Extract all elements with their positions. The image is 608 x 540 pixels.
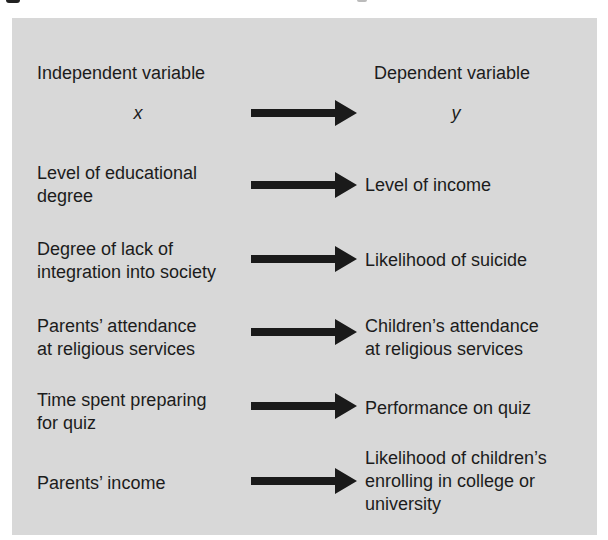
dependent-variable-label: Likelihood of suicide <box>365 249 527 272</box>
variables-diagram-panel: Independent variable Dependent variable … <box>12 18 597 535</box>
label-line: at religious services <box>365 338 539 361</box>
arrow-icon <box>251 468 357 494</box>
label-line: Degree of lack of <box>37 238 216 261</box>
label-line: enrolling in college or <box>365 470 547 493</box>
independent-symbol-x: x <box>134 102 143 124</box>
arrow-icon <box>251 393 357 419</box>
arrow-icon <box>251 319 357 345</box>
label-line: for quiz <box>37 412 206 435</box>
label-line: university <box>365 493 547 516</box>
dependent-variable-label: Children’s attendance at religious servi… <box>365 315 539 361</box>
arrow-icon <box>251 172 357 198</box>
dependent-variable-label: Level of income <box>365 174 491 197</box>
dependent-symbol-y: y <box>452 102 461 124</box>
independent-variable-header: Independent variable <box>37 62 205 84</box>
independent-variable-label: Parents’ income <box>37 472 165 495</box>
independent-variable-label: Parents’ attendance at religious service… <box>37 315 196 361</box>
cropped-decoration <box>357 0 367 2</box>
label-line: at religious services <box>37 338 196 361</box>
arrow-icon <box>251 246 357 272</box>
independent-variable-label: Level of educational degree <box>37 162 197 208</box>
label-line: Parents’ income <box>37 472 165 495</box>
arrow-icon <box>251 100 357 126</box>
dependent-variable-label: Likelihood of children’s enrolling in co… <box>365 447 547 516</box>
label-line: Likelihood of suicide <box>365 249 527 272</box>
label-line: Likelihood of children’s <box>365 447 547 470</box>
dependent-variable-header: Dependent variable <box>374 62 530 84</box>
label-line: integration into society <box>37 261 216 284</box>
cropped-decoration <box>6 0 20 3</box>
label-line: Level of educational <box>37 162 197 185</box>
label-line: degree <box>37 185 197 208</box>
label-line: Performance on quiz <box>365 397 531 420</box>
label-line: Level of income <box>365 174 491 197</box>
label-line: Children’s attendance <box>365 315 539 338</box>
independent-variable-label: Degree of lack of integration into socie… <box>37 238 216 284</box>
label-line: Time spent preparing <box>37 389 206 412</box>
label-line: Parents’ attendance <box>37 315 196 338</box>
independent-variable-label: Time spent preparing for quiz <box>37 389 206 435</box>
dependent-variable-label: Performance on quiz <box>365 397 531 420</box>
